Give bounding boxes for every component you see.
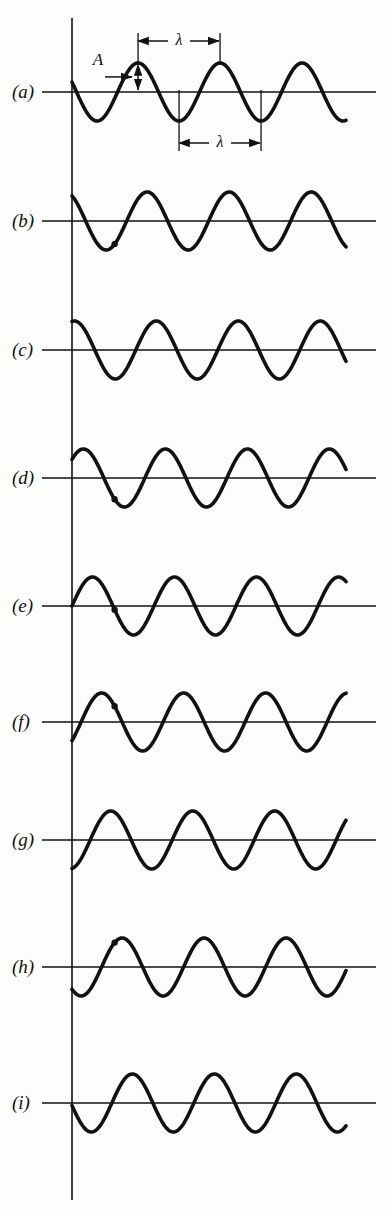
panel-label-e: (e): [12, 595, 33, 617]
amplitude-label: A: [93, 50, 103, 70]
panel-label-h: (h): [12, 956, 34, 978]
particle-marker-dot: [111, 606, 117, 612]
panel-label-f: (f): [12, 711, 30, 733]
wave-canvas: [0, 0, 391, 1214]
panel-label-c: (c): [12, 339, 33, 361]
panel-label-g: (g): [12, 829, 34, 851]
panel-label-d: (d): [12, 467, 34, 489]
particle-marker-dot: [111, 241, 117, 247]
wave-figure: (a)(b)(c)(d)(e)(f)(g)(h)(i)λλA: [0, 0, 391, 1214]
particle-marker-dot: [111, 939, 117, 945]
wavelength-label-top: λ: [176, 31, 183, 49]
panel-label-b: (b): [12, 210, 34, 232]
particle-marker-dot: [111, 703, 117, 709]
particle-marker-dot: [111, 496, 117, 502]
panel-label-a: (a): [12, 81, 34, 103]
panel-label-i: (i): [12, 1092, 30, 1114]
wavelength-label-bottom: λ: [217, 133, 224, 151]
